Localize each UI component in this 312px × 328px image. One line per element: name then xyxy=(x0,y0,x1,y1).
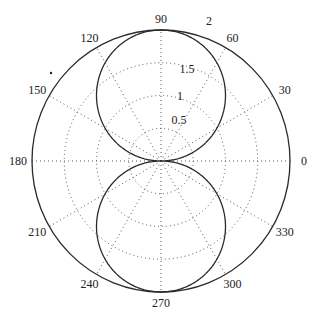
radial-label: 1 xyxy=(177,89,183,103)
radial-label: 2 xyxy=(206,14,212,28)
polar-curve xyxy=(97,30,226,292)
data-series xyxy=(97,30,226,292)
angle-label: 120 xyxy=(81,31,99,45)
angle-label: 300 xyxy=(224,277,242,291)
angle-label: 90 xyxy=(155,12,167,26)
polar-plot: 0306090120150180210240270300330 0.511.52 xyxy=(0,0,312,328)
grid-spoke xyxy=(97,161,162,274)
radial-label: 1.5 xyxy=(180,62,195,76)
angle-label: 270 xyxy=(152,296,170,310)
angle-label: 0 xyxy=(301,154,307,168)
stray-dot xyxy=(50,72,52,74)
angle-label: 240 xyxy=(81,277,99,291)
angle-label: 330 xyxy=(276,225,294,239)
angle-label: 180 xyxy=(9,154,27,168)
angle-label: 60 xyxy=(227,31,239,45)
angle-label: 30 xyxy=(279,83,291,97)
radial-label: 0.5 xyxy=(172,113,187,127)
angle-label: 150 xyxy=(28,83,46,97)
angle-label: 210 xyxy=(28,225,46,239)
